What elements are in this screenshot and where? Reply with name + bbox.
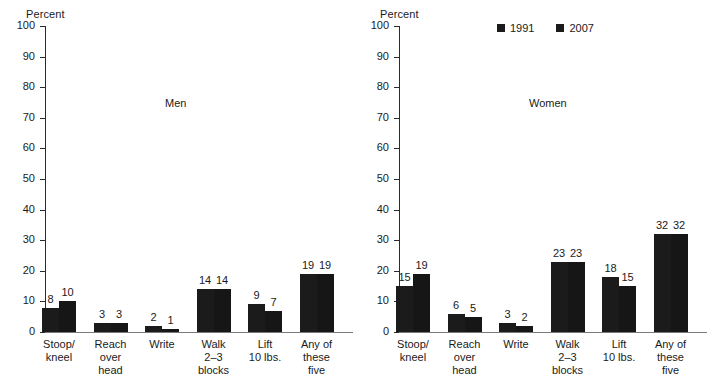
bar	[413, 274, 430, 332]
y-axis-tick	[40, 179, 45, 180]
y-axis-tick	[40, 118, 45, 119]
y-axis-tick-label: 50	[367, 172, 389, 184]
y-axis-tick-label: 100	[367, 19, 389, 31]
y-axis-tick	[394, 210, 399, 211]
bar	[448, 314, 465, 332]
y-axis-tick-label: 80	[13, 80, 35, 92]
y-axis-tick-label: 60	[13, 141, 35, 153]
legend-label-1991: 1991	[510, 22, 534, 34]
y-axis-tick	[40, 332, 45, 333]
y-axis-tick	[394, 148, 399, 149]
y-axis-tick	[40, 26, 45, 27]
y-axis-tick-label: 90	[367, 50, 389, 62]
y-axis-tick-label: 30	[367, 233, 389, 245]
bar-value-label: 19	[410, 259, 434, 271]
y-axis-tick	[394, 87, 399, 88]
bar	[396, 286, 413, 332]
legend-swatch-icon	[556, 24, 564, 32]
y-axis-tick-label: 40	[367, 203, 389, 215]
y-axis-tick-label: 70	[367, 111, 389, 123]
legend-item-2007[interactable]: 2007	[556, 22, 593, 34]
y-axis-tick-label: 10	[13, 294, 35, 306]
bar-value-label: 5	[461, 302, 485, 314]
bar	[59, 301, 76, 332]
y-axis-tick	[40, 210, 45, 211]
y-axis-line	[45, 26, 46, 333]
y-axis-tick-label: 50	[13, 172, 35, 184]
y-axis-tick-label: 0	[13, 325, 35, 337]
y-axis-tick-label: 60	[367, 141, 389, 153]
bar-value-label: 1	[159, 314, 183, 326]
y-axis-tick	[394, 118, 399, 119]
bar	[162, 329, 179, 332]
legend-swatch-icon	[497, 24, 505, 32]
y-axis-tick-label: 10	[367, 294, 389, 306]
bar-value-label: 32	[667, 219, 691, 231]
chart-panel-women: Percent Women 1991 2007 0102030405060708…	[354, 0, 708, 380]
y-axis-tick-label: 30	[13, 233, 35, 245]
bar-value-label: 14	[210, 274, 234, 286]
bar-value-label: 7	[262, 296, 286, 308]
bar-value-label: 3	[107, 308, 131, 320]
x-axis-baseline	[399, 332, 707, 333]
bar	[568, 262, 585, 332]
bar	[516, 326, 533, 332]
bar	[197, 289, 214, 332]
bar	[94, 323, 111, 332]
x-axis-baseline	[45, 332, 353, 333]
y-axis-tick-label: 20	[13, 264, 35, 276]
bar	[42, 308, 59, 332]
y-axis-tick-label: 20	[367, 264, 389, 276]
legend: 1991 2007	[497, 22, 594, 34]
y-axis-tick	[40, 271, 45, 272]
bar	[214, 289, 231, 332]
y-axis-tick	[40, 87, 45, 88]
panel-title-women: Women	[529, 97, 567, 109]
y-axis-tick-label: 90	[13, 50, 35, 62]
bar	[654, 234, 671, 332]
y-axis-tick-label: 40	[13, 203, 35, 215]
bar-value-label: 19	[313, 259, 337, 271]
bar-value-label: 23	[564, 247, 588, 259]
y-axis-tick	[394, 179, 399, 180]
y-axis-tick	[394, 240, 399, 241]
bar	[248, 304, 265, 332]
y-axis-tick	[394, 57, 399, 58]
bar-value-label: 2	[513, 311, 537, 323]
bar	[671, 234, 688, 332]
bar	[499, 323, 516, 332]
bar-value-label: 15	[616, 271, 640, 283]
y-axis-tick-label: 80	[367, 80, 389, 92]
bar	[619, 286, 636, 332]
y-axis-tick	[40, 148, 45, 149]
panel-title-men: Men	[165, 97, 186, 109]
bar	[317, 274, 334, 332]
bar	[465, 317, 482, 332]
y-axis-tick-label: 100	[13, 19, 35, 31]
bar	[300, 274, 317, 332]
bar	[602, 277, 619, 332]
bar	[111, 323, 128, 332]
x-axis-category-label: Any of these five	[639, 338, 703, 377]
y-axis-tick	[40, 240, 45, 241]
bar-value-label: 10	[56, 286, 80, 298]
legend-label-2007: 2007	[569, 22, 593, 34]
bar	[145, 326, 162, 332]
chart-panel-men: Percent Men 0102030405060708090100 81033…	[0, 0, 354, 380]
y-axis-tick	[394, 332, 399, 333]
bar	[265, 311, 282, 332]
y-axis-tick	[394, 26, 399, 27]
y-axis-tick	[40, 57, 45, 58]
bar	[551, 262, 568, 332]
y-axis-tick-label: 70	[13, 111, 35, 123]
legend-item-1991[interactable]: 1991	[497, 22, 534, 34]
figure-grouped-bar-charts: Percent Men 0102030405060708090100 81033…	[0, 0, 708, 380]
y-axis-tick-label: 0	[367, 325, 389, 337]
x-axis-category-label: Any of these five	[285, 338, 349, 377]
